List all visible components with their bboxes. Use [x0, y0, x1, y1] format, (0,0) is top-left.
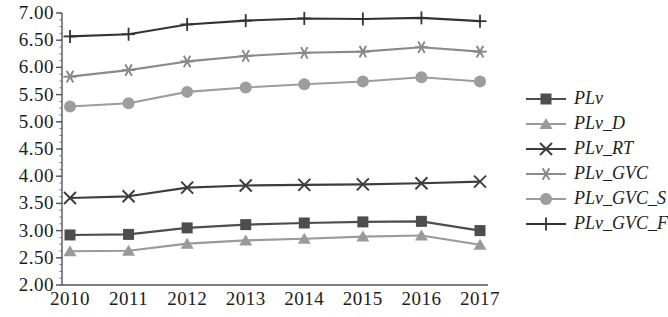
legend-label: PLv_D	[574, 113, 625, 134]
data-point	[475, 225, 486, 236]
data-point	[357, 216, 368, 227]
x-axis-tick-label: 2014	[275, 288, 333, 310]
legend-marker-plus-icon	[524, 213, 568, 235]
legend-item-plv-d[interactable]: PLv_D	[524, 111, 668, 136]
legend-label: PLv_GVC_S	[574, 188, 666, 209]
y-axis-tick-label: 4.50	[2, 138, 54, 160]
chart-series-group	[64, 11, 487, 256]
data-point	[298, 47, 311, 58]
chart-legend: PLvPLv_DPLv_RTPLv_GVCPLv_GVC_SPLv_GVC_F	[524, 86, 668, 236]
data-point	[65, 229, 76, 240]
data-point	[182, 222, 193, 233]
data-point	[298, 78, 310, 90]
y-axis-tick-label: 3.50	[2, 192, 54, 214]
data-point	[474, 15, 487, 28]
legend-label: PLv_GVC	[574, 163, 648, 184]
data-point	[474, 76, 486, 88]
legend-item-plv-gvc[interactable]: PLv_GVC	[524, 161, 668, 186]
x-axis-tick-label: 2013	[217, 288, 275, 310]
data-point	[415, 42, 428, 53]
data-point	[181, 18, 194, 31]
data-point	[64, 71, 77, 82]
x-axis-tick-label: 2015	[334, 288, 392, 310]
y-axis-tick-label: 5.00	[2, 111, 54, 133]
data-point	[64, 30, 77, 43]
legend-marker-asterisk-icon	[524, 163, 568, 185]
data-point	[240, 219, 251, 230]
legend-marker-x-icon	[524, 138, 568, 160]
x-axis-tick-label: 2016	[392, 288, 450, 310]
legend-label: PLv	[574, 88, 603, 109]
data-point	[123, 229, 134, 240]
data-point	[123, 97, 135, 109]
legend-marker-square-icon	[524, 88, 568, 110]
series-plv-rt	[64, 176, 486, 204]
data-point	[64, 101, 76, 113]
y-axis-tick-label: 4.00	[2, 165, 54, 187]
x-axis-tick-label: 2012	[158, 288, 216, 310]
legend-item-plv[interactable]: PLv	[524, 86, 668, 111]
data-point	[356, 46, 369, 57]
data-point	[357, 76, 369, 88]
y-axis-tick-label: 6.50	[2, 29, 54, 51]
x-axis-tick-label: 2017	[451, 288, 509, 310]
data-point	[415, 11, 428, 24]
y-axis-tick-label: 2.50	[2, 247, 54, 269]
data-point	[239, 14, 252, 27]
series-plv-gvc-s	[64, 71, 486, 112]
y-axis-tick-label: 7.00	[2, 2, 54, 24]
legend-marker-triangle-icon	[524, 113, 568, 135]
y-axis-tick-label: 6.00	[2, 56, 54, 78]
data-point	[122, 64, 135, 75]
data-point	[299, 217, 310, 228]
legend-label: PLv_RT	[574, 138, 633, 159]
legend-item-plv-gvc-s[interactable]: PLv_GVC_S	[524, 186, 668, 211]
x-axis-tick-label: 2011	[100, 288, 158, 310]
x-axis-tick-label: 2010	[41, 288, 99, 310]
data-point	[416, 216, 427, 227]
data-point	[181, 86, 193, 98]
legend-item-plv-rt[interactable]: PLv_RT	[524, 136, 668, 161]
data-point	[474, 46, 487, 57]
data-point	[298, 12, 311, 25]
data-point	[240, 82, 252, 94]
data-point	[122, 28, 135, 41]
data-point	[356, 12, 369, 25]
legend-item-plv-gvc-f[interactable]: PLv_GVC_F	[524, 211, 668, 236]
data-point	[239, 50, 252, 61]
legend-marker-circle-icon	[524, 188, 568, 210]
data-point	[181, 56, 194, 67]
data-point	[415, 71, 427, 83]
y-axis-tick-label: 5.50	[2, 84, 54, 106]
legend-label: PLv_GVC_F	[574, 213, 668, 234]
y-axis-tick-label: 3.00	[2, 220, 54, 242]
series-plv-gvc-f	[64, 11, 487, 42]
